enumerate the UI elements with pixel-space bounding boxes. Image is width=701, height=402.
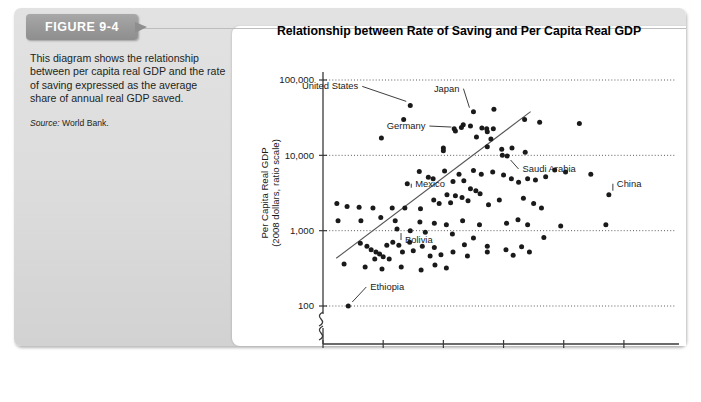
- data-point: [485, 144, 490, 149]
- data-point: [450, 232, 455, 237]
- data-point: [428, 254, 433, 259]
- annotation-leader-line: [429, 126, 451, 127]
- data-point: [342, 262, 347, 267]
- data-point: [453, 193, 458, 198]
- data-point: [364, 244, 369, 249]
- data-point: [444, 222, 449, 227]
- annotation-label: Mexico: [415, 178, 445, 189]
- source-prefix-label: Source:: [30, 118, 60, 128]
- annotation-leader-line: [352, 287, 366, 302]
- data-point: [516, 180, 521, 185]
- data-point: [459, 125, 464, 130]
- data-point: [448, 200, 453, 205]
- data-point: [479, 126, 484, 131]
- scatter-plot: 1001,00010,000100,00001020304050Gross Do…: [246, 48, 686, 348]
- data-point: [357, 205, 362, 210]
- data-point: [402, 205, 407, 210]
- data-point: [390, 205, 395, 210]
- data-point: [432, 263, 437, 268]
- y-tick-label: 10,000: [285, 150, 314, 161]
- data-point: [523, 150, 528, 155]
- data-point: [515, 217, 520, 222]
- data-point: [408, 103, 413, 108]
- annotation-label: Saudi Arabia: [523, 163, 577, 174]
- y-tick-label: 1,000: [290, 225, 314, 236]
- data-point: [577, 121, 582, 126]
- data-point: [400, 250, 405, 255]
- data-point: [473, 188, 478, 193]
- data-point: [379, 135, 384, 140]
- data-point: [519, 244, 524, 249]
- data-point: [468, 124, 473, 129]
- annotation-label: Bolivia: [405, 234, 433, 245]
- data-point: [417, 220, 422, 225]
- data-point: [509, 146, 514, 151]
- data-point: [461, 178, 466, 183]
- data-point: [358, 241, 363, 246]
- data-point: [491, 126, 496, 131]
- annotation-label: Germany: [387, 120, 426, 131]
- data-point: [432, 221, 437, 226]
- data-point: [370, 205, 375, 210]
- data-point: [450, 179, 455, 184]
- figure-description: This diagram shows the relationship betw…: [30, 52, 226, 106]
- data-point: [488, 136, 493, 141]
- data-point: [465, 254, 470, 259]
- data-point: [460, 195, 465, 200]
- figure-number-tab: FIGURE 9-4: [26, 14, 138, 40]
- y-tick-label: 100: [298, 300, 314, 311]
- data-point: [485, 244, 490, 249]
- data-point: [369, 247, 374, 252]
- figure-source: Source: World Bank.: [30, 118, 226, 128]
- data-point: [336, 218, 341, 223]
- data-point: [457, 172, 462, 177]
- data-point: [471, 109, 476, 114]
- source-text: World Bank.: [62, 118, 109, 128]
- figure-container: FIGURE 9-4 This diagram shows the relati…: [14, 8, 686, 346]
- data-point: [466, 198, 471, 203]
- data-point: [541, 235, 546, 240]
- chart-title: Relationship between Rate of Saving and …: [232, 24, 686, 38]
- data-point: [497, 198, 502, 203]
- data-point: [471, 168, 476, 173]
- data-point: [501, 172, 506, 177]
- data-point: [558, 224, 563, 229]
- data-point: [399, 264, 404, 269]
- y-axis-title-line2: (2008 dollars, ratio scale): [270, 139, 281, 247]
- data-point: [396, 243, 401, 248]
- annotation-label: China: [617, 178, 642, 189]
- data-point: [525, 222, 530, 227]
- data-point: [334, 201, 339, 206]
- data-point: [358, 218, 363, 223]
- annotation-leader-line: [511, 160, 519, 169]
- data-point: [479, 172, 484, 177]
- data-point: [384, 243, 389, 248]
- data-point: [468, 186, 473, 191]
- data-point: [346, 304, 351, 309]
- data-point: [390, 240, 395, 245]
- data-point: [363, 264, 368, 269]
- data-point: [450, 250, 455, 255]
- data-point: [462, 242, 467, 247]
- data-point: [379, 266, 384, 271]
- data-point: [486, 202, 491, 207]
- data-point: [499, 147, 504, 152]
- axis-break-icon: [319, 312, 323, 326]
- data-point: [442, 168, 447, 173]
- data-point: [539, 205, 544, 210]
- data-point: [408, 228, 413, 233]
- data-point: [431, 198, 436, 203]
- data-point: [378, 215, 383, 220]
- data-point: [511, 253, 516, 258]
- data-point: [606, 192, 611, 197]
- data-point: [372, 257, 377, 262]
- y-axis-title: Per Capita Real GDP(2008 dollars, ratio …: [259, 139, 281, 247]
- data-point: [405, 181, 410, 186]
- data-point: [509, 176, 514, 181]
- data-point: [453, 129, 458, 134]
- data-point: [477, 222, 482, 227]
- data-point: [419, 268, 424, 273]
- data-point: [491, 107, 496, 112]
- annotation-label: Japan: [434, 83, 460, 94]
- data-point: [504, 221, 509, 226]
